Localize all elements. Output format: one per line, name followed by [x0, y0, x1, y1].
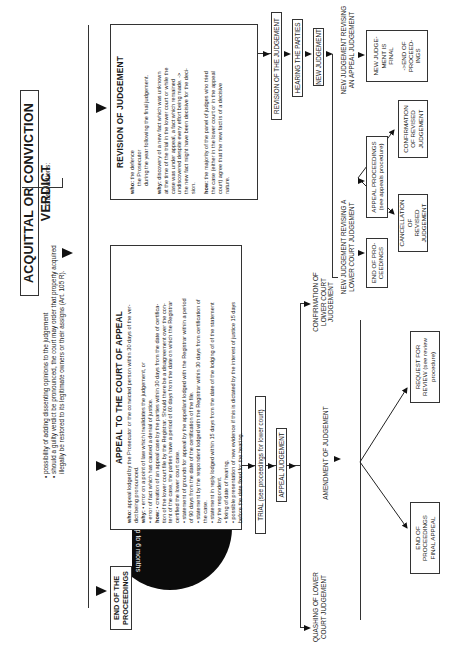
hearing-step: HEARING THE PARTIES	[292, 19, 303, 97]
confirmation-revised-box: CONFIRMATIONOF REVISEDJUDGEMENT	[398, 100, 428, 158]
revising-appeal-outcome: NEW JUDGEMENT REVISINGAN APPEAL JUDGEMEN…	[340, 2, 355, 98]
final-judgement-box: NEW JUDGE-MENT ISFINAL ->END OFPROCEED-I…	[366, 30, 428, 82]
new-judgement-step: NEW JUDGEMENT	[313, 28, 324, 86]
arrow-down-icon	[284, 51, 291, 57]
revision-outcomes-line	[332, 54, 333, 278]
end-final-appeal-box: END OFPROCEEDINGSFINAL APPEAL	[410, 502, 440, 574]
arrow-down-icon	[358, 178, 365, 184]
revising-lower-outcome: NEW JUDGEMENT REVISING ALOWER COURT JUDG…	[340, 192, 355, 302]
arrow-down-icon	[263, 51, 270, 57]
revision-step: REVISION OF THE JUDGEMENT	[271, 12, 282, 120]
arrow-down-icon	[305, 51, 312, 57]
arrow-down-icon	[358, 52, 365, 58]
revision-left-drop	[332, 277, 338, 278]
diagram-canvas: ACQUITTAL OR CONVICTION VERDICT Observat…	[0, 0, 459, 658]
arrow-down-icon	[358, 250, 365, 256]
cancellation-box: CANCELLATION OFREVISEDJUDGEMENT	[398, 194, 428, 252]
branch-arrows	[0, 0, 459, 658]
appeal-proceedings-box: APPEAL PROCEEDINGS(see appeals procedure…	[366, 136, 388, 218]
end-pro-ceedings-box: END OF PRO-CEEDINGS	[366, 238, 388, 288]
request-review-box: REQUEST FORREVIEW (see reviewprocedure)	[410, 331, 440, 403]
